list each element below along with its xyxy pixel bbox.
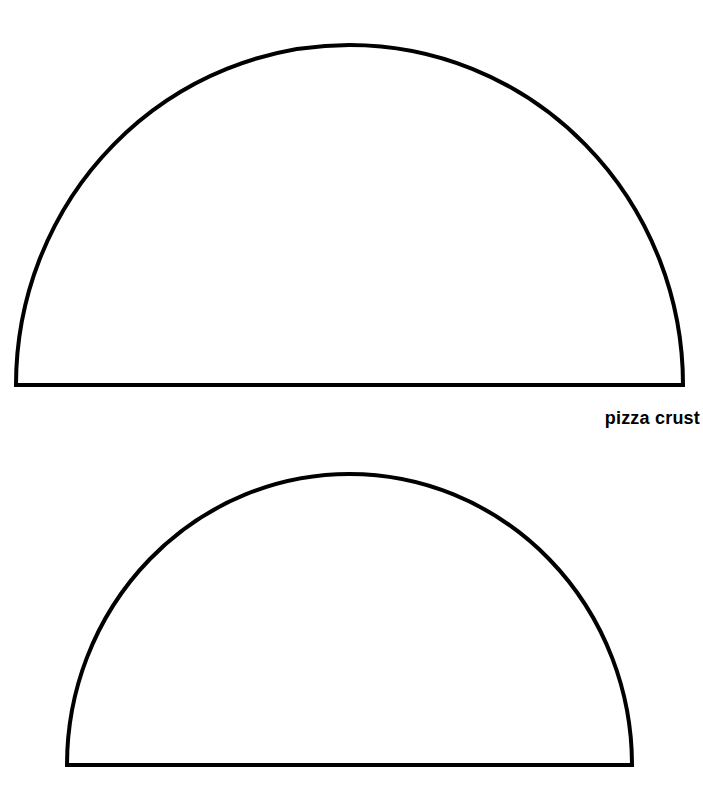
- pizza-crust-shapes-canvas: [0, 0, 703, 790]
- pizza-crust-label: pizza crust: [0, 408, 700, 428]
- large-pizza-crust-outline: [16, 45, 683, 385]
- small-pizza-crust-outline: [67, 474, 632, 765]
- pizza-crust-template-page: pizza crust: [0, 0, 703, 790]
